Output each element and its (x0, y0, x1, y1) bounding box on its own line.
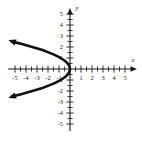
x-axis-arrowhead-icon (131, 66, 138, 71)
y-tick-label-neg2: -2 (58, 87, 63, 94)
x-axis-label: x (131, 56, 135, 63)
curve-arrowhead-lower-icon (8, 92, 16, 98)
x-tick-label-4: 4 (112, 74, 116, 81)
x-tick-label-neg4: -4 (23, 74, 29, 81)
x-tick-label-neg5: -5 (12, 74, 17, 81)
x-tick-label-5: 5 (123, 74, 126, 81)
y-tick-label-3: 3 (60, 32, 63, 39)
x-tick-label-neg3: -3 (34, 74, 39, 81)
x-tick-label-1: 1 (79, 74, 82, 81)
x-axis-group: -5 -4 -3 -2 -1 1 2 3 4 5 x (8, 56, 137, 81)
y-tick-label-neg3: -3 (58, 98, 63, 105)
curve-arrowhead-upper-icon (8, 40, 16, 46)
y-tick-label-5: 5 (60, 10, 63, 17)
y-tick-label-neg4: -4 (58, 109, 64, 116)
x-tick-label-2: 2 (90, 74, 93, 81)
coordinate-plane-svg: -5 -4 -3 -2 -1 1 2 3 4 5 x (0, 0, 142, 142)
y-axis-label: y (75, 4, 79, 11)
x-tick-label-3: 3 (101, 74, 104, 81)
parabola-graph-figure: -5 -4 -3 -2 -1 1 2 3 4 5 x (0, 0, 142, 142)
y-axis-arrowhead-icon (67, 8, 72, 15)
x-tick-label-neg2: -2 (45, 74, 50, 81)
y-tick-label-2: 2 (60, 43, 63, 50)
y-tick-label-neg5: -5 (58, 120, 63, 127)
y-tick-label-4: 4 (60, 21, 64, 28)
